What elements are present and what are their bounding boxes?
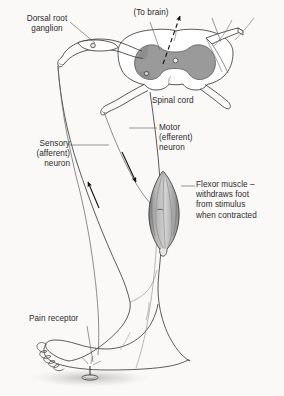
motor-neuron-cell-body [144,71,148,75]
sensory-afferent-fibre [58,66,99,355]
leader-pain-receptor [87,326,93,362]
sensory-cell-body [91,43,96,48]
muscle-belly [149,171,179,251]
dorsal-root-ganglion-swelling [78,40,118,51]
sensory-direction-arrow [88,182,99,208]
reflex-arc-figure: Dorsal root ganglion (To brain) Spinal c… [0,0,284,396]
dorsal-root-cut-end [58,57,64,67]
foot-arch-contour [120,332,130,350]
receptor-ending-1 [82,358,88,364]
label-flexor-muscle: Flexor muscle – withdraws foot from stim… [196,180,282,221]
tack-stimulus [30,356,150,387]
receptor-ending-3 [93,361,101,365]
motor-fibre-distal [136,230,157,368]
motor-efferent-fibre [104,112,157,210]
flexor-muscle-spindle [149,171,179,256]
muscle-tendon-lower [160,248,167,256]
label-spinal-cord: Spinal cord [152,96,218,106]
label-to-brain: (To brain) [118,8,184,18]
label-sensory-neuron: Sensory (afferent) neuron [8,139,70,170]
label-pain-receptor: Pain receptor [29,314,105,324]
ventral-root-right-cut-end [221,100,230,109]
label-motor-neuron: Motor (efferent) neuron [159,123,225,154]
spinal-cord-cross-section [118,18,254,90]
central-canal [173,58,178,63]
motor-direction-arrow [122,152,136,182]
foot-dorsum-edge [46,304,158,361]
label-dorsal-root-ganglion: Dorsal root ganglion [8,14,86,34]
